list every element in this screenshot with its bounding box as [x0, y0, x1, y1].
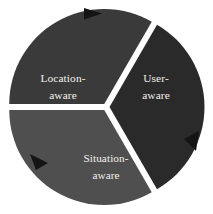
- label-location-aware-line1: Location-: [40, 72, 85, 84]
- label-location-aware-line2: aware: [49, 89, 77, 101]
- diagram-canvas: Location- aware User- aware Situation- a…: [0, 0, 213, 214]
- label-user-aware-line2: aware: [142, 89, 170, 101]
- awareness-cycle-diagram: Location- aware User- aware Situation- a…: [0, 0, 213, 214]
- label-situation-aware-line2: aware: [92, 169, 119, 181]
- label-user-aware-line1: User-: [143, 72, 169, 84]
- label-situation-aware-line1: Situation-: [83, 152, 128, 164]
